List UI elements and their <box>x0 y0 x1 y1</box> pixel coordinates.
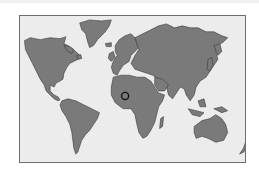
madagascar <box>160 117 164 129</box>
world-map <box>19 15 246 163</box>
iceland <box>105 43 111 47</box>
japan <box>207 57 213 71</box>
southeast-asia-islands <box>188 109 204 117</box>
continent-north-america <box>24 37 79 101</box>
top-strip <box>0 0 259 3</box>
newfoundland <box>77 54 82 59</box>
new-zealand <box>240 140 245 154</box>
continent-australia <box>194 115 228 143</box>
continent-south-america <box>60 99 99 154</box>
borneo <box>198 99 206 107</box>
new-guinea <box>214 107 228 113</box>
map-canvas <box>20 16 245 162</box>
